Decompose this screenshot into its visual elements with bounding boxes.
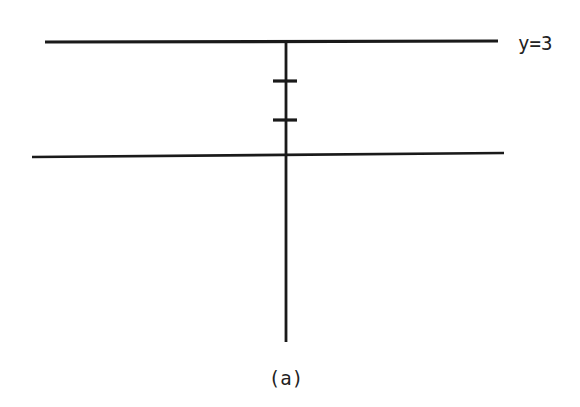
bottom-horizontal-line	[32, 153, 504, 157]
diagram-canvas: y=3 (a)	[0, 0, 580, 407]
figure-caption: (a)	[269, 367, 303, 389]
line-label-y3: y=3	[518, 32, 552, 54]
top-horizontal-line	[45, 41, 498, 42]
